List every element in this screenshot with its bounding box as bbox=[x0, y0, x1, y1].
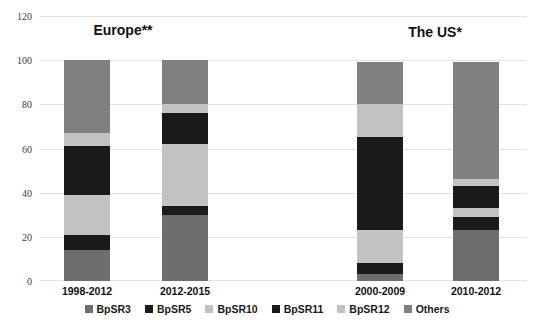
legend-swatch-icon-others bbox=[404, 305, 412, 313]
chart-legend: BpSR3BpSR5BpSR10BpSR11BpSR12Others bbox=[0, 303, 534, 315]
x-label-2012-2015: 2012-2015 bbox=[130, 285, 240, 297]
y-tick-80: 80 bbox=[22, 99, 32, 110]
bar-segment-bpsr3 bbox=[64, 250, 110, 281]
stacked-bar-chart: 120 100 80 60 40 20 0 Europe** The US* 1… bbox=[0, 0, 534, 332]
bar-segment-bpsr11 bbox=[64, 146, 110, 195]
legend-swatch-icon-bpsr11 bbox=[272, 305, 280, 313]
bar-segment-bpsr11 bbox=[162, 113, 208, 144]
group-title-europe: Europe** bbox=[68, 22, 178, 38]
legend-label-others: Others bbox=[416, 303, 450, 315]
bar-2010-2012[interactable] bbox=[453, 62, 499, 281]
legend-swatch-icon-bpsr12 bbox=[337, 305, 345, 313]
legend-item-bpsr10[interactable]: BpSR10 bbox=[205, 303, 257, 315]
y-tick-120: 120 bbox=[17, 11, 32, 22]
bar-segment-others bbox=[453, 62, 499, 179]
bar-segment-bpsr5 bbox=[453, 217, 499, 230]
legend-swatch-icon-bpsr5 bbox=[145, 305, 153, 313]
plot-area bbox=[40, 16, 527, 281]
bar-segment-bpsr11 bbox=[357, 137, 403, 230]
legend-item-bpsr5[interactable]: BpSR5 bbox=[145, 303, 191, 315]
y-tick-60: 60 bbox=[22, 143, 32, 154]
gridline-120 bbox=[40, 16, 527, 17]
legend-item-bpsr12[interactable]: BpSR12 bbox=[337, 303, 389, 315]
bar-2012-2015[interactable] bbox=[162, 60, 208, 281]
bar-segment-bpsr10 bbox=[357, 230, 403, 263]
legend-swatch-icon-bpsr10 bbox=[205, 305, 213, 313]
bar-segment-bpsr11 bbox=[453, 186, 499, 208]
x-label-2010-2012: 2010-2012 bbox=[421, 285, 531, 297]
bar-segment-others bbox=[64, 60, 110, 133]
legend-label-bpsr5: BpSR5 bbox=[157, 303, 191, 315]
bar-segment-bpsr3 bbox=[453, 230, 499, 281]
y-tick-40: 40 bbox=[22, 187, 32, 198]
y-tick-20: 20 bbox=[22, 231, 32, 242]
bar-2000-2009[interactable] bbox=[357, 62, 403, 281]
legend-label-bpsr10: BpSR10 bbox=[217, 303, 257, 315]
bar-segment-others bbox=[357, 62, 403, 104]
x-label-1998-2012: 1998-2012 bbox=[32, 285, 142, 297]
bar-1998-2012[interactable] bbox=[64, 60, 110, 281]
x-label-2000-2009: 2000-2009 bbox=[325, 285, 435, 297]
group-title-us: The US* bbox=[380, 24, 490, 40]
bar-segment-bpsr5 bbox=[357, 263, 403, 274]
legend-item-bpsr11[interactable]: BpSR11 bbox=[272, 303, 324, 315]
legend-label-bpsr12: BpSR12 bbox=[349, 303, 389, 315]
bar-segment-bpsr5 bbox=[64, 235, 110, 250]
bar-segment-others bbox=[162, 60, 208, 104]
legend-label-bpsr3: BpSR3 bbox=[97, 303, 131, 315]
y-tick-100: 100 bbox=[17, 55, 32, 66]
bar-segment-bpsr10 bbox=[162, 144, 208, 206]
legend-label-bpsr11: BpSR11 bbox=[284, 303, 324, 315]
bar-segment-bpsr10 bbox=[64, 195, 110, 235]
bar-segment-bpsr12 bbox=[357, 104, 403, 137]
legend-swatch-icon-bpsr3 bbox=[85, 305, 93, 313]
bar-segment-bpsr12 bbox=[453, 179, 499, 186]
bar-segment-bpsr3 bbox=[162, 215, 208, 281]
bar-segment-bpsr12 bbox=[162, 104, 208, 113]
bar-segment-bpsr10 bbox=[453, 208, 499, 217]
legend-item-bpsr3[interactable]: BpSR3 bbox=[85, 303, 131, 315]
bar-segment-bpsr3 bbox=[357, 274, 403, 281]
bar-segment-bpsr12 bbox=[64, 133, 110, 146]
bar-segment-bpsr5 bbox=[162, 206, 208, 215]
legend-item-others[interactable]: Others bbox=[404, 303, 450, 315]
y-axis-labels: 120 100 80 60 40 20 0 bbox=[0, 16, 36, 281]
gridline-100 bbox=[40, 60, 527, 61]
